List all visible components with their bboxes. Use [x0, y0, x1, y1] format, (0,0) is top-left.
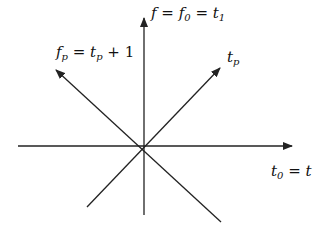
label-equals: =	[161, 4, 174, 22]
label-tp-subscript: p	[96, 51, 102, 62]
tp-axis-label: tp	[227, 50, 239, 67]
label-t0-subscript: 0	[277, 170, 283, 181]
axes-diagram	[0, 0, 321, 225]
label-equals: =	[73, 43, 86, 61]
label-equals: =	[195, 4, 208, 22]
label-f: f	[151, 4, 157, 22]
label-fp-subscript: p	[62, 51, 68, 62]
diagonal-tp-axis	[87, 68, 220, 207]
label-plus: +	[107, 43, 120, 61]
label-one: 1	[125, 43, 135, 61]
label-equals: =	[288, 162, 301, 180]
vertical-axis-label: f = f0 = t1	[151, 6, 225, 23]
label-f0-subscript: 0	[184, 12, 190, 23]
label-t: t	[306, 162, 312, 180]
fp-axis-label: fp = tp + 1	[56, 45, 134, 62]
label-tp-subscript: p	[233, 56, 239, 67]
label-t1-subscript: 1	[219, 12, 225, 23]
horizontal-axis-label: t0 = t	[271, 164, 312, 181]
